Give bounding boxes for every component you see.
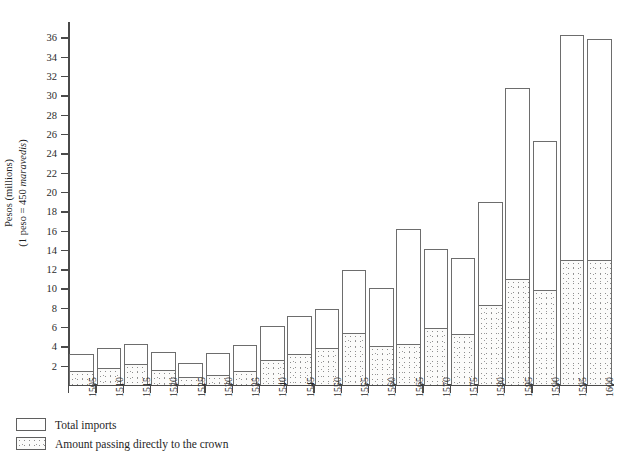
figure-caption <box>0 457 626 465</box>
y-tick-28 <box>61 115 68 116</box>
y-tick-label-34: 34 <box>47 51 58 62</box>
x-tick-1585 <box>504 386 505 393</box>
x-tick-1505 <box>68 386 69 393</box>
chart-figure: Pesos (millions) (1 peso = 450 maravedis… <box>0 0 626 465</box>
legend-item-crown-share: Amount passing directly to the crown <box>16 435 228 452</box>
y-axis-title-line2: (1 peso = 450 maravedis) <box>16 139 30 246</box>
y-tick-4 <box>61 346 68 347</box>
y-tick-18 <box>61 211 68 212</box>
y-tick-label-20: 20 <box>47 186 58 197</box>
x-tick-1580 <box>477 386 478 393</box>
y-tick-24 <box>61 153 68 154</box>
bar-1600 <box>587 39 612 385</box>
y-tick-20 <box>61 192 68 193</box>
y-tick-label-32: 32 <box>47 71 58 82</box>
y-tick-8 <box>61 308 68 309</box>
y-axis-title-italic: maravedis <box>17 143 28 187</box>
y-tick-36 <box>61 37 68 38</box>
x-tick-1595 <box>559 386 560 393</box>
x-tick-1540 <box>259 386 260 393</box>
bar-crown-1600 <box>587 260 612 386</box>
x-tick-1525 <box>177 386 178 393</box>
y-tick-12 <box>61 269 68 270</box>
bar-1565 <box>396 229 421 385</box>
bar-1555 <box>342 270 367 385</box>
y-tick-label-10: 10 <box>47 283 58 294</box>
legend-label-total-imports: Total imports <box>55 419 116 431</box>
y-tick-26 <box>61 134 68 135</box>
x-tick-1510 <box>95 386 96 393</box>
x-tick-1545 <box>286 386 287 393</box>
y-tick-label-18: 18 <box>47 206 58 217</box>
y-tick-label-2: 2 <box>52 360 57 371</box>
y-tick-label-36: 36 <box>47 32 58 43</box>
y-tick-16 <box>61 231 68 232</box>
x-tick-1565 <box>395 386 396 393</box>
y-tick-2 <box>61 366 68 367</box>
y-tick-label-28: 28 <box>47 109 58 120</box>
y-tick-label-30: 30 <box>47 90 58 101</box>
plot-area <box>68 22 613 385</box>
x-tick-1535 <box>232 386 233 393</box>
x-tick-1555 <box>341 386 342 393</box>
bar-1550 <box>315 309 340 385</box>
bar-crown-1595 <box>560 260 585 386</box>
bar-1580 <box>478 202 503 385</box>
y-tick-14 <box>61 250 68 251</box>
y-axis-title-line1: Pesos (millions) <box>2 139 16 246</box>
bar-1560 <box>369 288 394 386</box>
bar-crown-1580 <box>478 305 503 385</box>
y-tick-6 <box>61 327 68 328</box>
y-tick-30 <box>61 95 68 96</box>
x-tick-1570 <box>422 386 423 393</box>
y-tick-label-4: 4 <box>52 341 57 352</box>
y-tick-34 <box>61 57 68 58</box>
legend-swatch-crown-share <box>16 437 46 450</box>
y-tick-22 <box>61 173 68 174</box>
bar-1595 <box>560 35 585 385</box>
bar-1575 <box>451 258 476 385</box>
chart-legend: Total imports Amount passing directly to… <box>16 416 228 454</box>
y-tick-label-8: 8 <box>52 302 57 313</box>
y-tick-label-6: 6 <box>52 322 57 333</box>
bar-1585 <box>505 88 530 385</box>
y-axis-title: Pesos (millions) (1 peso = 450 maravedis… <box>2 139 30 246</box>
x-tick-1590 <box>531 386 532 393</box>
x-tick-1600 <box>586 386 587 393</box>
x-tick-label-1600: 1600 <box>604 377 615 397</box>
y-tick-label-24: 24 <box>47 148 58 159</box>
y-tick-label-22: 22 <box>47 167 58 178</box>
y-axis-title-prefix: (1 peso = 450 <box>17 187 28 247</box>
y-tick-label-14: 14 <box>47 244 58 255</box>
bar-1590 <box>533 141 558 385</box>
legend-swatch-total-imports <box>16 418 46 431</box>
bar-1545 <box>287 316 312 385</box>
legend-label-crown-share: Amount passing directly to the crown <box>55 438 228 450</box>
y-tick-label-16: 16 <box>47 225 58 236</box>
bar-1570 <box>424 249 449 385</box>
y-tick-32 <box>61 76 68 77</box>
y-tick-label-12: 12 <box>47 264 58 275</box>
x-tick-1560 <box>368 386 369 393</box>
x-tick-1515 <box>123 386 124 393</box>
y-tick-label-26: 26 <box>47 128 58 139</box>
x-tick-1520 <box>150 386 151 393</box>
bar-crown-1590 <box>533 290 558 385</box>
legend-item-total-imports: Total imports <box>16 416 228 433</box>
y-axis-title-suffix: ) <box>17 139 28 143</box>
x-tick-1550 <box>313 386 314 393</box>
bar-crown-1585 <box>505 279 530 385</box>
x-tick-1575 <box>450 386 451 393</box>
y-tick-10 <box>61 288 68 289</box>
x-tick-1530 <box>204 386 205 393</box>
